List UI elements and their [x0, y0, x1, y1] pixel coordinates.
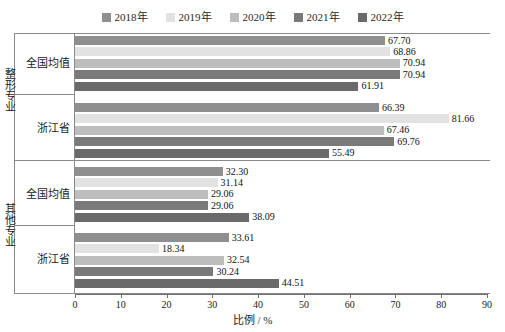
category-label: 浙江省	[14, 253, 74, 265]
legend-swatch-icon	[102, 13, 111, 22]
legend-item-2018年: 2018年	[102, 12, 148, 23]
group-separator	[14, 94, 75, 95]
legend-label: 2020年	[243, 12, 276, 23]
bar-row: 67.46	[75, 126, 487, 135]
group-separator	[14, 225, 75, 226]
bar-2020年-其他专业 - 全国均值	[75, 190, 208, 199]
bar-2022年-整形专业 - 浙江省	[75, 149, 329, 158]
bar-row: 66.39	[75, 103, 487, 112]
bar-2022年-整形专业 - 全国均值	[75, 82, 358, 91]
bar-row: 29.06	[75, 190, 487, 199]
bar-row: 44.51	[75, 279, 487, 288]
legend-swatch-icon	[358, 13, 367, 22]
bar-value-label: 69.76	[394, 137, 420, 147]
bar-row: 81.66	[75, 114, 487, 123]
bar-2019年-其他专业 - 全国均值	[75, 178, 218, 187]
bar-2020年-整形专业 - 全国均值	[75, 59, 400, 68]
bar-row: 61.91	[75, 82, 487, 91]
bar-row: 38.09	[75, 213, 487, 222]
bar-value-label: 68.86	[390, 47, 416, 57]
category-label: 浙江省	[14, 122, 74, 134]
x-axis-tick-label: 50	[299, 299, 309, 310]
x-axis-tick	[350, 294, 351, 298]
x-axis-line	[75, 294, 487, 295]
bar-value-label: 32.30	[223, 167, 249, 177]
bar-2021年-整形专业 - 浙江省	[75, 137, 394, 146]
bar-2021年-其他专业 - 全国均值	[75, 201, 208, 210]
bar-row: 67.70	[75, 36, 487, 45]
bar-value-label: 61.91	[358, 81, 384, 91]
bar-2018年-其他专业 - 浙江省	[75, 233, 229, 242]
x-axis-tick	[212, 294, 213, 298]
x-axis-tick-label: 80	[436, 299, 446, 310]
bar-value-label: 67.70	[385, 36, 411, 46]
bar-2022年-其他专业 - 浙江省	[75, 279, 279, 288]
section-label: 整形专业	[0, 55, 16, 125]
bar-2018年-整形专业 - 全国均值	[75, 36, 385, 45]
x-axis-tick	[487, 294, 488, 298]
bar-2020年-其他专业 - 浙江省	[75, 256, 224, 265]
bar-2018年-其他专业 - 全国均值	[75, 167, 223, 176]
bar-row: 31.14	[75, 178, 487, 187]
bar-2019年-其他专业 - 浙江省	[75, 244, 159, 253]
legend-item-2020年: 2020年	[230, 12, 276, 23]
group-separator	[14, 293, 490, 294]
bar-row: 69.76	[75, 137, 487, 146]
bar-value-label: 18.34	[159, 244, 185, 254]
bar-value-label: 32.54	[224, 255, 250, 265]
bar-value-label: 67.46	[384, 125, 410, 135]
x-axis-tick-label: 0	[73, 299, 78, 310]
bar-value-label: 81.66	[449, 114, 475, 124]
bar-2019年-整形专业 - 全国均值	[75, 47, 390, 56]
bar-value-label: 31.14	[218, 178, 244, 188]
bar-value-label: 66.39	[379, 103, 405, 113]
legend-label: 2018年	[115, 12, 148, 23]
legend-label: 2022年	[371, 12, 404, 23]
legend-swatch-icon	[294, 13, 303, 22]
x-axis-tick-label: 10	[116, 299, 126, 310]
bar-value-label: 44.51	[279, 278, 305, 288]
bar-2019年-整形专业 - 浙江省	[75, 114, 449, 123]
x-axis-tick-label: 70	[390, 299, 400, 310]
bar-row: 55.49	[75, 149, 487, 158]
legend-swatch-icon	[230, 13, 239, 22]
x-axis-tick	[121, 294, 122, 298]
bar-row: 32.30	[75, 167, 487, 176]
bar-value-label: 29.06	[208, 201, 234, 211]
bar-row: 33.61	[75, 233, 487, 242]
x-axis-title: 比例 / %	[0, 314, 505, 326]
category-label: 全国均值	[14, 188, 74, 200]
bar-row: 18.34	[75, 244, 487, 253]
group-separator	[14, 160, 490, 161]
legend-label: 2021年	[307, 12, 340, 23]
bar-value-label: 30.24	[213, 267, 239, 277]
x-axis-tick-label: 90	[482, 299, 492, 310]
bar-2018年-整形专业 - 浙江省	[75, 103, 379, 112]
legend-label: 2019年	[179, 12, 212, 23]
legend-item-2019年: 2019年	[166, 12, 212, 23]
bar-2021年-整形专业 - 全国均值	[75, 70, 400, 79]
x-axis-tick-label: 40	[253, 299, 263, 310]
bar-chart: 2018年2019年2020年2021年2022年 67.7068.8670.9…	[0, 0, 505, 332]
bar-2022年-其他专业 - 全国均值	[75, 213, 249, 222]
bar-row: 32.54	[75, 256, 487, 265]
bar-value-label: 55.49	[329, 148, 355, 158]
bar-row: 29.06	[75, 201, 487, 210]
bar-row: 70.94	[75, 70, 487, 79]
chart-legend: 2018年2019年2020年2021年2022年	[0, 12, 505, 23]
bar-2021年-其他专业 - 浙江省	[75, 267, 213, 276]
bar-row: 70.94	[75, 59, 487, 68]
x-axis-tick	[167, 294, 168, 298]
bar-value-label: 70.94	[400, 70, 426, 80]
bar-value-label: 38.09	[249, 212, 275, 222]
legend-item-2022年: 2022年	[358, 12, 404, 23]
x-axis-tick	[75, 294, 76, 298]
bar-value-label: 29.06	[208, 189, 234, 199]
bar-value-label: 70.94	[400, 58, 426, 68]
x-axis-tick	[258, 294, 259, 298]
plot-area: 67.7068.8670.9470.9461.9166.3981.6667.46…	[75, 33, 487, 294]
bar-row: 68.86	[75, 47, 487, 56]
bar-value-label: 33.61	[229, 233, 255, 243]
x-axis-tick	[304, 294, 305, 298]
bar-row: 30.24	[75, 267, 487, 276]
